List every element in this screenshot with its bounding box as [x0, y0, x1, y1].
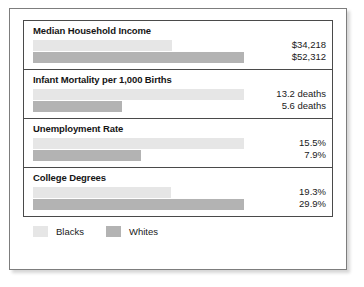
bar-blacks: [33, 89, 244, 100]
bar-blacks: [33, 187, 171, 198]
legend-entry-whites: Whites: [106, 226, 158, 237]
bar-track: [33, 199, 244, 210]
figure-frame: Median Household Income $34,218 $52,312: [9, 8, 347, 270]
bar-whites: [33, 101, 122, 112]
legend-entry-blacks: Blacks: [33, 226, 84, 237]
legend-label: Blacks: [56, 226, 84, 237]
bar-whites: [33, 150, 141, 161]
bar-track: [33, 101, 244, 112]
bar-value-blacks: $34,218: [246, 39, 326, 51]
bar-track: [33, 150, 244, 161]
legend-label: Whites: [129, 226, 158, 237]
bar-track: [33, 52, 244, 63]
bar-row: $34,218: [33, 40, 332, 51]
legend-swatch-icon: [106, 226, 121, 237]
bar-row: $52,312: [33, 52, 332, 63]
metric-table: Median Household Income $34,218 $52,312: [23, 20, 333, 217]
bar-blacks: [33, 138, 244, 149]
panel-title: Unemployment Rate: [24, 119, 332, 138]
bars-area: 15.5% 7.9%: [24, 138, 332, 167]
bar-track: [33, 89, 244, 100]
legend-swatch-icon: [33, 226, 48, 237]
bar-whites: [33, 199, 244, 210]
bar-value-whites: $52,312: [246, 51, 326, 63]
bars-area: 13.2 deaths 5.6 deaths: [24, 89, 332, 118]
bar-whites: [33, 52, 244, 63]
bar-value-blacks: 13.2 deaths: [246, 88, 326, 100]
metric-panel: Median Household Income $34,218 $52,312: [24, 21, 332, 70]
bar-value-blacks: 15.5%: [246, 137, 326, 149]
bar-track: [33, 187, 244, 198]
bar-value-whites: 7.9%: [246, 149, 326, 161]
bar-row: 19.3%: [33, 187, 332, 198]
bars-area: $34,218 $52,312: [24, 40, 332, 69]
bar-value-whites: 5.6 deaths: [246, 100, 326, 112]
panel-title: Infant Mortality per 1,000 Births: [24, 70, 332, 89]
bar-row: 5.6 deaths: [33, 101, 332, 112]
metric-panel: College Degrees 19.3% 29.9%: [24, 168, 332, 216]
bar-row: 13.2 deaths: [33, 89, 332, 100]
bars-area: 19.3% 29.9%: [24, 187, 332, 216]
bar-value-blacks: 19.3%: [246, 186, 326, 198]
panel-title: Median Household Income: [24, 21, 332, 40]
bar-track: [33, 40, 244, 51]
metric-panel: Unemployment Rate 15.5% 7.9%: [24, 119, 332, 168]
bar-blacks: [33, 40, 172, 51]
bar-value-whites: 29.9%: [246, 198, 326, 210]
chart-body: Median Household Income $34,218 $52,312: [23, 20, 333, 237]
panel-title: College Degrees: [24, 168, 332, 187]
bar-row: 29.9%: [33, 199, 332, 210]
metric-panel: Infant Mortality per 1,000 Births 13.2 d…: [24, 70, 332, 119]
chart-legend: Blacks Whites: [23, 217, 333, 237]
bar-row: 15.5%: [33, 138, 332, 149]
bar-row: 7.9%: [33, 150, 332, 161]
bar-track: [33, 138, 244, 149]
